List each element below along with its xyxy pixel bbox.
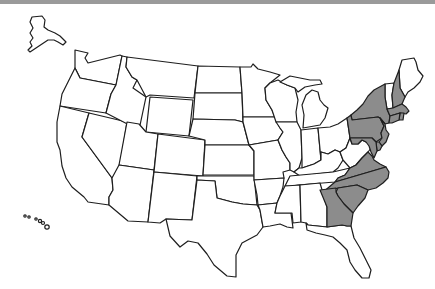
state-wyoming [146, 97, 193, 136]
state-florida [306, 223, 371, 278]
us-states-map [0, 0, 435, 289]
state-alaska [28, 16, 66, 52]
state-colorado [154, 134, 205, 176]
state-maine [399, 58, 423, 97]
state-arizona [109, 165, 154, 222]
state-kansas [203, 145, 254, 175]
state-hawaii [24, 215, 49, 229]
state-south-dakota [193, 93, 243, 122]
state-new-mexico [148, 172, 197, 223]
state-michigan-lower [302, 90, 328, 128]
state-north-dakota [195, 66, 242, 93]
